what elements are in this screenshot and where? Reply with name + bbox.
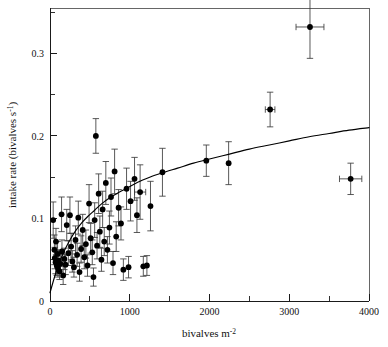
data-point xyxy=(68,244,74,250)
data-point xyxy=(59,211,65,217)
data-point xyxy=(53,239,59,245)
data-point xyxy=(113,234,119,240)
data-point xyxy=(126,264,132,270)
data-point xyxy=(91,274,97,280)
data-point xyxy=(80,227,86,233)
data-point xyxy=(110,260,116,266)
data-point xyxy=(83,241,89,247)
y-axis-title: intake rate (bivalves s-1) xyxy=(6,102,20,208)
data-point xyxy=(89,249,95,255)
data-point xyxy=(86,201,92,207)
y-tick-label: 0 xyxy=(39,296,44,307)
data-point xyxy=(88,235,94,241)
data-point xyxy=(307,24,313,30)
data-point xyxy=(93,133,99,139)
data-point xyxy=(78,246,84,252)
data-point xyxy=(120,267,126,273)
data-point xyxy=(74,252,80,258)
data-point xyxy=(92,217,98,223)
frame-top-right-border xyxy=(50,8,369,301)
data-point xyxy=(118,221,124,227)
data-point xyxy=(128,198,134,204)
data-point xyxy=(67,212,73,218)
scatter-plot: 00.10.20.3 01000200030004000 bivalves m-… xyxy=(0,0,388,347)
x-axis-ticks: 01000200030004000 xyxy=(48,294,380,317)
data-point xyxy=(103,180,109,186)
y-tick-label: 0.2 xyxy=(32,131,45,142)
data-point xyxy=(77,269,83,275)
data-point xyxy=(100,206,106,212)
data-point xyxy=(50,217,56,223)
data-point xyxy=(63,262,69,268)
data-point xyxy=(61,256,67,262)
data-point xyxy=(81,254,87,260)
plot-frame xyxy=(50,8,369,301)
y-tick-label: 0.3 xyxy=(32,48,45,59)
data-point xyxy=(348,176,354,182)
data-point xyxy=(85,263,91,269)
data-point xyxy=(107,225,113,231)
data-point xyxy=(137,189,143,195)
x-tick-label: 0 xyxy=(48,306,53,317)
data-point xyxy=(64,222,70,228)
data-point xyxy=(116,205,122,211)
data-point xyxy=(148,203,154,209)
y-tick-label: 0.1 xyxy=(32,213,45,224)
data-point xyxy=(96,191,102,197)
data-point xyxy=(97,229,103,235)
data-point xyxy=(94,243,100,249)
x-tick-label: 4000 xyxy=(359,306,379,317)
data-point xyxy=(99,257,105,263)
data-point xyxy=(101,239,107,245)
data-point xyxy=(71,264,77,270)
data-point xyxy=(73,237,79,243)
data-point xyxy=(112,169,118,175)
data-point xyxy=(134,212,140,218)
figure-container: 00.10.20.3 01000200030004000 bivalves m-… xyxy=(0,0,388,347)
x-axis-title: bivalves m-2 xyxy=(182,327,236,340)
axes xyxy=(50,8,369,301)
data-point xyxy=(144,263,150,269)
data-point xyxy=(60,273,66,279)
x-tick-label: 2000 xyxy=(200,306,220,317)
fitted-response-curve xyxy=(50,128,369,293)
x-tick-label: 1000 xyxy=(120,306,140,317)
data-point xyxy=(267,107,273,113)
data-point xyxy=(132,176,138,182)
data-point xyxy=(69,258,75,264)
data-point xyxy=(105,247,111,253)
data-point xyxy=(65,250,71,256)
x-tick-label: 3000 xyxy=(279,306,299,317)
data-point xyxy=(226,160,232,166)
data-point xyxy=(75,215,81,221)
